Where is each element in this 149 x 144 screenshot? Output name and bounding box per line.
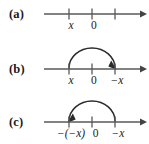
panel-a: (a) x 0	[0, 0, 149, 40]
panel-b-label: (b)	[9, 63, 25, 76]
tick-label-b-zero: 0	[91, 73, 97, 87]
panel-b: (b) x 0 −x	[0, 36, 149, 90]
tick-label-c-neg-x: −x	[111, 126, 124, 140]
panel-c-tick-labels: −(−x) 0 −x	[40, 126, 149, 140]
tick-label-c-neg-neg-x: −(−x)	[57, 126, 85, 140]
tick-label-a-x: x	[69, 18, 74, 32]
panel-b-tick-labels: x 0 −x	[40, 73, 149, 87]
axis-arrowhead-right-b	[140, 66, 147, 73]
axis-arrowhead-right-a	[140, 11, 147, 18]
panel-a-label: (a)	[9, 8, 24, 21]
tick-label-b-x: x	[69, 73, 74, 87]
tick-label-c-zero: 0	[93, 126, 99, 140]
panel-a-tick-labels: x 0	[40, 18, 149, 32]
panel-c: (c) −(−x) 0 −x	[0, 88, 149, 144]
tick-label-b-neg-x: −x	[110, 73, 123, 87]
number-line-figure: (a) x 0 (b)	[0, 0, 149, 144]
tick-label-a-zero: 0	[91, 18, 97, 32]
axis-arrowhead-right-c	[140, 119, 147, 126]
panel-c-label: (c)	[9, 116, 23, 129]
